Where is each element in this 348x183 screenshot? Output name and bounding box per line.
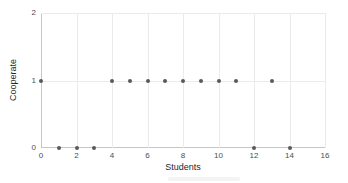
data-point [92, 146, 96, 150]
data-point [199, 79, 203, 83]
bottom-edge-artifact [168, 177, 240, 181]
data-point [163, 79, 167, 83]
data-point [110, 79, 114, 83]
x-tick-label: 0 [39, 151, 43, 161]
data-point [128, 79, 132, 83]
data-point [217, 79, 221, 83]
x-tick-label: 10 [214, 151, 223, 161]
vertical-gridline [325, 13, 326, 148]
y-tick-label: 1 [14, 76, 36, 86]
data-point [181, 79, 185, 83]
horizontal-gridline [41, 13, 325, 14]
x-tick-label: 6 [145, 151, 149, 161]
y-tick-label: 2 [14, 8, 36, 18]
x-tick-label: 4 [110, 151, 114, 161]
y-tick-label: 0 [14, 143, 36, 153]
x-tick-label: 2 [74, 151, 78, 161]
data-point [252, 146, 256, 150]
x-axis-title: Students [165, 162, 201, 172]
data-point [234, 79, 238, 83]
scatter-chart: Cooperate Students 0246810121416012 [0, 0, 348, 183]
data-point [57, 146, 61, 150]
data-point [146, 79, 150, 83]
x-tick-label: 12 [250, 151, 259, 161]
data-point [75, 146, 79, 150]
data-point [39, 79, 43, 83]
x-tick-label: 16 [321, 151, 330, 161]
data-point [270, 79, 274, 83]
x-tick-label: 14 [285, 151, 294, 161]
x-tick-label: 8 [181, 151, 185, 161]
data-point [288, 146, 292, 150]
